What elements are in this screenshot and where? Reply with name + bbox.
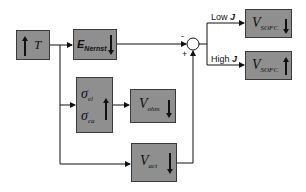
vsofc-high-block: VSOFC [245,51,292,80]
temperature-symbol: T [34,37,41,53]
nernst-subscript: Nernst [84,45,106,52]
minus-sign: - [181,31,184,41]
low-label-text: Low [211,12,228,22]
ohmic-label: Vohm [139,96,160,113]
vsofc-high-symbol: V [252,57,261,72]
activation-label: Vact [140,153,157,170]
sigma-el-symbol: σ [81,86,88,101]
down-arrow-icon [110,35,112,51]
sigma-ca-label: σca [81,108,95,125]
sigma-el-label: σel [81,86,93,103]
up-arrow-icon [285,61,287,75]
conductivity-block: σel σca [76,77,113,133]
low-j-variable: J [230,12,235,22]
high-j-variable: J [232,54,237,64]
activation-symbol: V [140,153,149,168]
down-arrow-icon [168,100,170,114]
activation-block: Vact [131,143,177,182]
ohmic-symbol: V [139,96,148,111]
temperature-block: T [16,30,50,60]
sigma-ca-subscript: ca [88,117,95,125]
high-j-label: High J [211,54,237,64]
sigma-ca-symbol: σ [81,108,88,123]
down-arrow-icon [169,153,171,170]
high-label-text: High [211,54,230,64]
down-arrow-icon [285,19,287,30]
nernst-block: ENernst [73,29,117,60]
vsofc-high-label: VSOFC [252,57,278,74]
vsofc-low-symbol: V [252,15,261,30]
vsofc-low-subscript: SOFC [261,24,279,32]
sigma-el-subscript: el [88,95,93,103]
vsofc-low-block: VSOFC [245,9,292,38]
ohmic-block: Vohm [130,89,176,123]
vsofc-low-label: VSOFC [252,15,278,32]
ohmic-subscript: ohm [148,105,160,113]
plus-sign: + [182,49,187,59]
low-j-label: Low J [211,12,235,22]
nernst-label: ENernst [77,38,107,52]
activation-subscript: act [149,162,158,170]
up-arrow-icon [24,40,26,56]
vsofc-high-subscript: SOFC [261,66,279,74]
up-arrow-icon [105,102,107,120]
summing-junction [187,38,199,50]
